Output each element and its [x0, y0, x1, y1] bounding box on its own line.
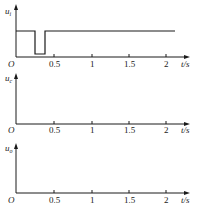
tick-label: 1.5: [124, 125, 136, 135]
plot-uc: uc O 0.5 1 1.5 2 t/s: [5, 73, 190, 135]
tick-label: 1.5: [124, 195, 136, 205]
y-label: ui: [5, 6, 12, 17]
tick-label: 0.5: [49, 125, 61, 135]
waveform-figure: ui O 0.5 1 1.5 2 t/s uc O 0.5 1 1.5 2 t/…: [0, 0, 198, 211]
y-axis-arrow-icon: [14, 143, 18, 149]
origin-label: O: [8, 195, 15, 205]
y-label: uo: [5, 143, 13, 154]
origin-label: O: [8, 125, 15, 135]
plot-ui: ui O 0.5 1 1.5 2 t/s: [5, 4, 190, 69]
tick-label: 2: [164, 195, 169, 205]
tick-label: 0.5: [49, 59, 61, 69]
tick-label: 1: [90, 195, 95, 205]
y-axis-arrow-icon: [14, 73, 18, 79]
tick-label: 1.5: [124, 59, 136, 69]
y-axis-arrow-icon: [14, 4, 18, 10]
tick-label: 1: [90, 59, 95, 69]
x-label: t/s: [181, 195, 190, 205]
tick-label: 2: [164, 125, 169, 135]
plot-uo: uo O 0.5 1 1.5 2 t/s: [5, 143, 190, 205]
tick-label: 2: [164, 59, 169, 69]
origin-label: O: [8, 59, 15, 69]
tick-label: 0.5: [49, 195, 61, 205]
tick-label: 1: [90, 125, 95, 135]
x-label: t/s: [181, 125, 190, 135]
ui-waveform: [16, 31, 175, 54]
x-label: t/s: [181, 59, 190, 69]
y-label: uc: [5, 73, 13, 84]
